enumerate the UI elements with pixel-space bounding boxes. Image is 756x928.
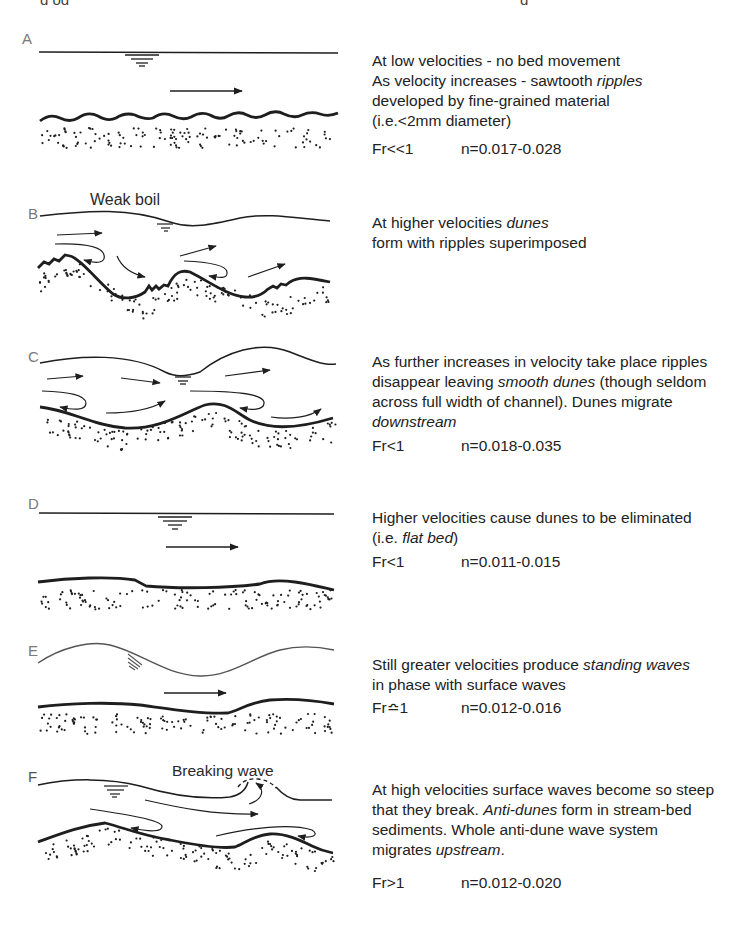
sediment-grain: [330, 858, 332, 860]
flow-arrow: [248, 264, 285, 277]
sediment-grain: [162, 847, 164, 849]
sediment-grain: [202, 732, 204, 734]
sediment-grain: [197, 600, 199, 602]
sediment-grain: [285, 309, 287, 311]
sediment-grain: [271, 848, 273, 850]
sediment-grain: [94, 606, 96, 608]
sediment-grain: [254, 591, 256, 593]
sediment-grain: [231, 862, 233, 864]
sediment-grain: [324, 716, 326, 718]
sediment-grain: [324, 730, 326, 732]
sediment-grain: [176, 283, 178, 285]
sediment-grain: [249, 715, 251, 717]
water-surface: [40, 211, 330, 225]
sediment-grain: [240, 297, 242, 299]
sediment-grain: [201, 147, 203, 149]
sediment-grain: [73, 845, 75, 847]
sediment-grain: [306, 132, 308, 134]
sediment-dots: [41, 127, 331, 149]
sediment-grain: [309, 608, 311, 610]
sediment-grain: [170, 287, 172, 289]
sediment-grain: [329, 589, 331, 591]
sediment-grain: [41, 134, 43, 136]
sediment-grain: [159, 129, 161, 131]
sediment-grain: [70, 590, 72, 592]
sediment-grain: [324, 131, 326, 133]
sediment-grain: [152, 855, 154, 857]
sediment-grain: [244, 589, 246, 591]
sediment-grain: [187, 286, 189, 288]
sediment-grain: [300, 847, 302, 849]
emphasized-term: Anti-dunes: [483, 801, 557, 818]
sediment-grain: [264, 315, 266, 317]
sediment-grain: [153, 146, 155, 148]
sediment-grain: [284, 437, 286, 439]
sediment-grain: [307, 868, 309, 870]
sediment-grain: [207, 608, 209, 610]
sediment-grain: [186, 128, 188, 130]
sediment-grain: [120, 449, 122, 451]
sediment-grain: [236, 144, 238, 146]
sediment-grain: [188, 132, 190, 134]
sediment-grain: [249, 434, 251, 436]
sediment-grain: [257, 430, 259, 432]
sediment-grain: [146, 430, 148, 432]
sediment-grain: [212, 590, 214, 592]
sediment-grain: [292, 729, 294, 731]
sediment-grain: [107, 599, 109, 601]
sediment-grain: [206, 286, 208, 288]
sediment-grain: [95, 726, 97, 728]
sediment-grain: [212, 423, 214, 425]
sediment-grain: [244, 729, 246, 731]
sediment-grain: [249, 722, 251, 724]
sediment-grain: [71, 593, 73, 595]
sediment-grain: [118, 430, 120, 432]
sediment-grain: [271, 311, 273, 313]
sediment-grain: [170, 144, 172, 146]
sediment-grain: [124, 143, 126, 145]
sediment-grain: [160, 131, 162, 133]
sediment-grain: [59, 419, 61, 421]
sediment-grain: [170, 128, 172, 130]
sediment-grain: [327, 301, 329, 303]
sediment-grain: [196, 135, 198, 137]
sediment-grain: [249, 294, 251, 296]
sediment-grain: [84, 726, 86, 728]
sediment-grain: [60, 593, 62, 595]
sediment-grain: [157, 439, 159, 441]
sediment-grain: [116, 713, 118, 715]
sediment-grain: [284, 727, 286, 729]
description-text: (i.e.<2mm diameter): [372, 112, 511, 129]
sediment-grain: [267, 731, 269, 733]
sediment-grain: [122, 431, 124, 433]
sediment-grain: [315, 867, 317, 869]
sediment-grain: [49, 854, 51, 856]
sediment-grain: [190, 594, 192, 596]
sediment-grain: [53, 851, 55, 853]
sediment-grain: [179, 421, 181, 423]
sediment-grain: [325, 137, 327, 139]
sediment-grain: [238, 420, 240, 422]
sediment-grain: [74, 718, 76, 720]
sediment-grain: [94, 732, 96, 734]
sediment-grain: [95, 719, 97, 721]
sediment-grain: [261, 603, 263, 605]
sediment-grain: [83, 717, 85, 719]
panel-c-drawing: [40, 347, 337, 451]
sediment-grain: [322, 286, 324, 288]
sediment-grain: [267, 301, 269, 303]
sediment-grain: [103, 135, 105, 137]
sediment-grain: [80, 716, 82, 718]
sediment-grain: [119, 593, 121, 595]
sediment-grain: [79, 597, 81, 599]
sediment-grain: [172, 132, 174, 134]
sediment-grain: [195, 849, 197, 851]
sediment-grain: [263, 143, 265, 145]
sediment-grain: [116, 718, 118, 720]
sediment-grain: [224, 291, 226, 293]
sediment-grain: [177, 720, 179, 722]
sediment-grain: [251, 442, 253, 444]
sediment-grain: [181, 135, 183, 137]
sediment-grain: [78, 593, 80, 595]
sediment-grain: [282, 307, 284, 309]
